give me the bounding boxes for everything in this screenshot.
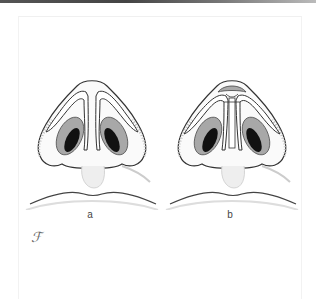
top-border-bar xyxy=(0,0,316,3)
panel-a-illustration xyxy=(22,70,162,210)
illustrator-monogram: ℱ xyxy=(31,229,42,245)
panel-b-illustration xyxy=(162,70,302,210)
nose-base-b-drawing xyxy=(162,70,302,210)
panel-a-label: a xyxy=(80,209,100,220)
panel-b-label: b xyxy=(220,209,240,220)
nose-base-a-drawing xyxy=(22,70,162,210)
